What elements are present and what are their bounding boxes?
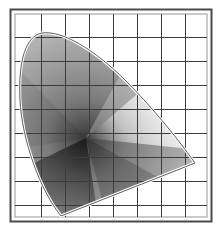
chromaticity-diagram: [0, 0, 223, 233]
